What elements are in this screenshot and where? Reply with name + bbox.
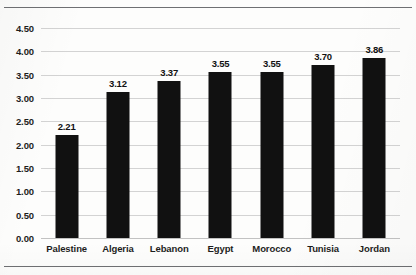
y-axis-tick-label: 3.50 <box>16 69 34 80</box>
bar-value-label: 2.21 <box>58 121 76 132</box>
y-axis-tick-label: 3.00 <box>16 93 34 104</box>
x-axis-category-label: Morocco <box>252 243 291 254</box>
x-axis-category-label: Jordan <box>359 243 390 254</box>
y-axis-tick-label: 4.50 <box>16 23 34 34</box>
bar-value-label: 3.37 <box>160 67 178 78</box>
bar <box>209 72 232 238</box>
bar-slot: 3.70Tunisia <box>297 28 348 238</box>
bar-slot: 2.21Palestine <box>41 28 92 238</box>
bar-value-label: 3.12 <box>109 78 127 89</box>
bars-group: 2.21Palestine3.12Algeria3.37Lebanon3.55E… <box>41 28 400 238</box>
bar-value-label: 3.70 <box>314 51 332 62</box>
y-axis-tick-label: 4.00 <box>16 46 34 57</box>
y-axis-tick-label: 2.50 <box>16 116 34 127</box>
bar <box>312 65 335 238</box>
y-axis-tick-label: 0.50 <box>16 209 34 220</box>
y-axis-tick-label: 0.00 <box>16 233 34 244</box>
bar <box>158 81 181 238</box>
bar <box>260 72 283 238</box>
y-axis-tick-label: 1.00 <box>16 186 34 197</box>
plot-area: 0.000.501.001.502.002.503.003.504.004.50… <box>41 28 400 238</box>
x-axis-category-label: Palestine <box>46 243 87 254</box>
bar-value-label: 3.55 <box>212 58 230 69</box>
y-axis-tick-label: 2.00 <box>16 139 34 150</box>
page-rule-top <box>4 7 412 8</box>
bar-slot: 3.55Morocco <box>246 28 297 238</box>
bar-chart-figure: 0.000.501.001.502.002.503.003.504.004.50… <box>0 0 416 275</box>
gridline: 0.00 <box>41 238 400 239</box>
bar-slot: 3.55Egypt <box>195 28 246 238</box>
bar <box>106 92 129 238</box>
x-axis-category-label: Tunisia <box>307 243 339 254</box>
bar-value-label: 3.86 <box>365 44 383 55</box>
bar-slot: 3.12Algeria <box>92 28 143 238</box>
bar-slot: 3.86Jordan <box>349 28 400 238</box>
bar <box>55 135 78 238</box>
bar-slot: 3.37Lebanon <box>144 28 195 238</box>
bar-value-label: 3.55 <box>263 58 281 69</box>
y-axis-tick-label: 1.50 <box>16 163 34 174</box>
x-axis-category-label: Algeria <box>102 243 134 254</box>
page-rule-bottom <box>4 266 412 267</box>
x-axis-category-label: Lebanon <box>150 243 189 254</box>
x-axis-category-label: Egypt <box>208 243 234 254</box>
bar <box>363 58 386 238</box>
